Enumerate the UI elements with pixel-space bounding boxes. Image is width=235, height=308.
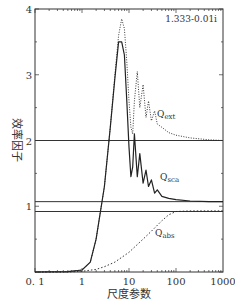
x-tick-label: 1000 <box>210 276 235 287</box>
y-axis-title: 效率因子 <box>10 118 24 162</box>
y-tick-label: 3 <box>26 70 32 81</box>
series-label-sca: Qsca <box>160 172 179 184</box>
y-tick-label: 2 <box>26 136 32 147</box>
x-tick-label: 100 <box>166 276 185 287</box>
series-layer: QextQscaQabs <box>35 19 223 272</box>
y-tick-label: 1 <box>26 201 32 212</box>
series-q-abs <box>35 211 223 272</box>
efficiency-factor-chart: QextQscaQabs 0. 111010010001234 1.333-0.… <box>0 0 235 308</box>
x-tick-label: 10 <box>123 276 136 287</box>
x-tick-label: 1 <box>79 276 85 287</box>
y-tick-label: 4 <box>26 4 32 15</box>
series-label-abs: Qabs <box>155 228 175 240</box>
axis-labels: 0. 111010010001234 <box>25 4 235 287</box>
series-q-sca <box>35 42 223 272</box>
series-label-ext: Qext <box>157 109 175 121</box>
chart-annotation: 1.333-0.01i <box>165 14 217 24</box>
x-axis-title: 尺度参数 <box>107 287 151 301</box>
x-tick-label: 0. 1 <box>25 276 44 287</box>
